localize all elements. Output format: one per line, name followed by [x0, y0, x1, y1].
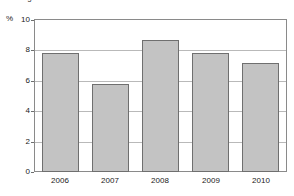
y-tick-mark-0	[31, 172, 34, 173]
y-tick-label-8: 8	[8, 46, 30, 54]
x-tick-label-2008: 2008	[135, 176, 185, 185]
bar-2010	[242, 63, 279, 172]
y-tick-label-2: 2	[8, 138, 30, 146]
y-tick-label-4: 4	[8, 107, 30, 115]
x-tick-label-2006: 2006	[35, 176, 85, 185]
y-tick-label-10: 10	[8, 16, 30, 24]
y-axis: 0246810	[0, 0, 30, 196]
bar-2008	[142, 40, 179, 172]
bar-2009	[192, 53, 229, 172]
x-tick-label-2010: 2010	[236, 176, 286, 185]
bar-2007	[92, 84, 129, 172]
x-axis: 20062007200820092010	[35, 176, 286, 190]
y-tick-label-0: 0	[8, 168, 30, 176]
x-tick-label-2009: 2009	[186, 176, 236, 185]
y-tick-label-6: 6	[8, 77, 30, 85]
x-tick-label-2007: 2007	[85, 176, 135, 185]
bar-series	[35, 20, 286, 172]
bar-2006	[42, 53, 79, 172]
